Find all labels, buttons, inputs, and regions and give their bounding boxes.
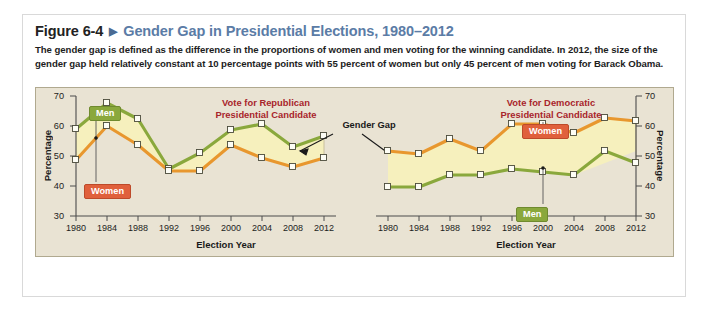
- figure-caption: The gender gap is defined as the differe…: [35, 43, 667, 70]
- left-ytick-40: 40: [48, 181, 64, 191]
- right-xtick-1988: 1988: [437, 223, 463, 233]
- left-xtick-1992: 1992: [156, 223, 182, 233]
- right-chart-heading-line1: Vote for Democratic: [466, 97, 636, 109]
- left-chart-heading: Vote for Republican Presidential Candida…: [186, 97, 346, 121]
- right-xtick-1996: 1996: [499, 223, 525, 233]
- right-men-badge: Men: [516, 207, 548, 222]
- right-ytick-30: 30: [645, 211, 661, 221]
- right-men-anchor-dot: [541, 166, 545, 170]
- left-chart-heading-line2: Presidential Candidate: [186, 109, 346, 121]
- figure-title: Gender Gap in Presidential Elections, 19…: [123, 23, 454, 39]
- left-xtick-1984: 1984: [94, 223, 120, 233]
- right-women-badge: Women: [522, 124, 569, 139]
- left-xtick-1996: 1996: [187, 223, 213, 233]
- left-women-badge: Women: [84, 184, 131, 199]
- figure-card: Figure 6-4 ▶ Gender Gap in Presidential …: [22, 14, 686, 297]
- figure-header: Figure 6-4 ▶ Gender Gap in Presidential …: [35, 23, 675, 70]
- figure-number: Figure 6-4: [35, 23, 103, 39]
- left-chart-heading-line1: Vote for Republican: [186, 97, 346, 109]
- left-ytick-30: 30: [48, 211, 64, 221]
- left-x-axis-title: Election Year: [96, 239, 356, 250]
- right-chart-heading: Vote for Democratic Presidential Candida…: [466, 97, 636, 121]
- right-ytick-70: 70: [645, 91, 661, 101]
- right-xtick-1980: 1980: [375, 223, 401, 233]
- chart-panel: 70 60 50 40 30 70 60 50 40 30 1980 1984 …: [35, 87, 674, 257]
- right-chart-heading-line2: Presidential Candidate: [466, 109, 636, 121]
- left-ytick-70: 70: [48, 91, 64, 101]
- right-xtick-1984: 1984: [406, 223, 432, 233]
- left-xtick-2000: 2000: [218, 223, 244, 233]
- right-xtick-1992: 1992: [468, 223, 494, 233]
- left-women-anchor-dot: [94, 136, 98, 140]
- left-xtick-1980: 1980: [63, 223, 89, 233]
- triangle-right-icon: ▶: [109, 25, 117, 38]
- left-xtick-2004: 2004: [249, 223, 275, 233]
- right-xtick-2012: 2012: [623, 223, 649, 233]
- gender-gap-annotation: Gender Gap: [324, 120, 414, 130]
- left-men-badge: Men: [89, 106, 121, 121]
- right-ytick-40: 40: [645, 181, 661, 191]
- right-y-axis-title: Percentage: [655, 130, 666, 181]
- left-xtick-1988: 1988: [125, 223, 151, 233]
- right-x-axis-title: Election Year: [396, 239, 656, 250]
- figure-title-line: Figure 6-4 ▶ Gender Gap in Presidential …: [35, 23, 675, 39]
- right-xtick-2004: 2004: [561, 223, 587, 233]
- right-xtick-2000: 2000: [530, 223, 556, 233]
- left-xtick-2012: 2012: [311, 223, 337, 233]
- left-y-axis-title: Percentage: [42, 130, 53, 181]
- left-xtick-2008: 2008: [280, 223, 306, 233]
- right-xtick-2008: 2008: [592, 223, 618, 233]
